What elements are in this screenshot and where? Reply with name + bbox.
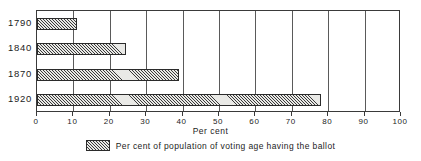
bar-1790	[37, 18, 77, 30]
bar-chart-figure: 1790184018701920 0102030405060708090100 …	[0, 0, 421, 161]
tick-label-30: 30	[130, 117, 160, 126]
tick-mark-40	[182, 112, 183, 116]
bar-row	[37, 43, 401, 55]
tick-label-10: 10	[57, 117, 87, 126]
x-axis-title: Per cent	[0, 126, 421, 136]
legend-swatch-icon	[86, 140, 110, 151]
tick-label-20: 20	[94, 117, 124, 126]
category-label-1790: 1790	[0, 17, 32, 28]
chart-legend: Per cent of population of voting age hav…	[0, 140, 421, 151]
tick-mark-80	[327, 112, 328, 116]
tick-mark-50	[218, 112, 219, 116]
tick-mark-100	[400, 112, 401, 116]
category-label-1840: 1840	[0, 42, 32, 53]
tick-label-70: 70	[276, 117, 306, 126]
category-label-1870: 1870	[0, 68, 32, 79]
tick-label-0: 0	[21, 117, 51, 126]
bar-row	[37, 18, 401, 30]
tick-label-40: 40	[167, 117, 197, 126]
tick-mark-60	[254, 112, 255, 116]
tick-label-100: 100	[385, 117, 415, 126]
tick-mark-10	[72, 112, 73, 116]
bar-1920	[37, 94, 321, 106]
tick-mark-90	[364, 112, 365, 116]
bar-1870	[37, 69, 179, 81]
plot-area	[36, 10, 400, 112]
tick-mark-30	[145, 112, 146, 116]
tick-mark-0	[36, 112, 37, 116]
tick-mark-70	[291, 112, 292, 116]
bar-1840	[37, 43, 126, 55]
tick-label-80: 80	[312, 117, 342, 126]
tick-label-90: 90	[349, 117, 379, 126]
legend-entry-label: Per cent of population of voting age hav…	[116, 141, 336, 151]
tick-label-50: 50	[203, 117, 233, 126]
bar-row	[37, 69, 401, 81]
tick-mark-20	[109, 112, 110, 116]
bar-row	[37, 94, 401, 106]
category-label-1920: 1920	[0, 93, 32, 104]
tick-label-60: 60	[239, 117, 269, 126]
